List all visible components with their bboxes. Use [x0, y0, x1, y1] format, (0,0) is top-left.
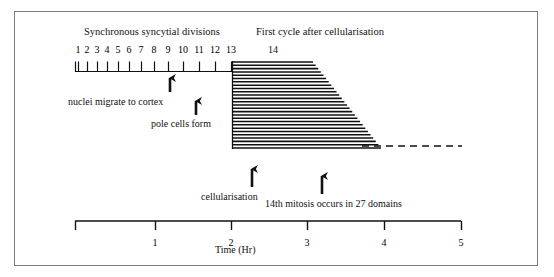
time-axis-label-1: 1 — [153, 237, 158, 248]
annotation-label-nuclei-migrate-to-cortex: nuclei migrate to cortex — [68, 97, 163, 107]
time-axis — [75, 221, 462, 230]
time-axis-label-3: 3 — [305, 237, 310, 248]
mitotic-domain-block — [232, 61, 462, 149]
annotation-label-cellularisation: cellularisation — [201, 192, 258, 202]
axis-label-time-hr: Time (Hr) — [215, 245, 255, 255]
syncytial-cycle-axis — [75, 62, 232, 72]
diagram-drawing-layer — [0, 0, 554, 277]
annotation-label-pole-cells-form: pole cells form — [151, 119, 211, 129]
time-axis-label-4: 4 — [382, 237, 387, 248]
annotation-label-14th-mitosis-27-domains: 14th mitosis occurs in 27 domains — [265, 199, 402, 209]
figure-root: Synchronous syncytial divisions First cy… — [0, 0, 554, 277]
time-axis-label-5: 5 — [459, 237, 464, 248]
